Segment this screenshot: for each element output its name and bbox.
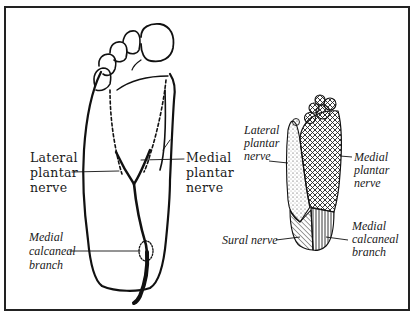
lateral-plantar-nerve-line (116, 152, 134, 184)
left-foot-illustration (70, 24, 184, 303)
label-sural-nerve: Sural nerve (222, 234, 278, 247)
right-foot-sensory-map (269, 95, 352, 250)
label-medial-plantar-nerve-left: Medial plantar nerve (186, 150, 234, 195)
label-lateral-plantar-nerve-left: Lateral plantar nerve (30, 150, 78, 195)
label-lateral-plantar-nerve-right: Lateral plantar nerve (244, 124, 279, 163)
medial-plantar-nerve-line (134, 150, 150, 184)
label-medial-calcaneal-branch-left: Medial calcaneal branch (29, 230, 76, 272)
label-medial-calcaneal-branch-right: Medial calcaneal branch (352, 220, 399, 259)
label-medial-plantar-nerve-right: Medial plantar nerve (354, 151, 389, 190)
foot-outline (83, 72, 175, 291)
region-medial-calcaneal (311, 208, 334, 250)
